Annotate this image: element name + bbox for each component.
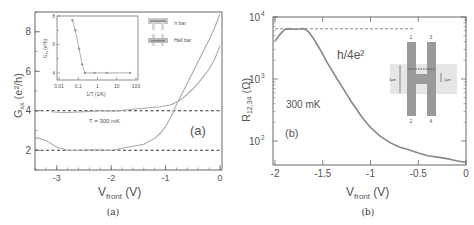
panel-label-a: (a): [190, 123, 206, 138]
terminal-3: 3: [430, 34, 433, 40]
terminal-4: 4: [430, 118, 433, 124]
dim-label-3um: 3μm: [389, 78, 396, 82]
inset-data-point: [105, 72, 107, 74]
x-tick-label-b: 0: [463, 168, 469, 179]
inset-data-point: [74, 29, 76, 31]
x-tick-label-b: -2: [271, 168, 280, 179]
x-tick-label-a: -3: [53, 173, 61, 183]
legend-a: π bar Hall bar: [148, 18, 192, 46]
y-tick-exponent-b: 2: [261, 134, 265, 141]
inset-x-tick-label: 10: [114, 83, 120, 89]
legend-hall-bar-icon: [148, 34, 168, 46]
legend-entry-pi-bar: π bar: [174, 20, 186, 26]
figure: -3-2-102468 T = 300 mK (a) Gxx (e²/h) Vf…: [0, 0, 474, 225]
ylabel-a: Gxx (e²/h): [12, 73, 25, 118]
y-tick-label-b: 10: [249, 12, 261, 23]
y-tick-exponent-b: 3: [261, 72, 265, 79]
inset-x-tick-label: 1: [96, 83, 99, 89]
y-tick-label-a: 8: [25, 26, 31, 37]
inset-data-point: [78, 48, 80, 50]
inset-data-point: [129, 72, 131, 74]
inset-a: 0.010.1110100468 Gxx (e²/h) 1/T (1/K): [43, 14, 140, 97]
x-tick-label-a: 0: [217, 173, 222, 183]
device-arm-left: [407, 42, 416, 116]
inset-xlabel: 1/T (1/K): [86, 91, 106, 97]
inset-x-tick-label: 100: [132, 83, 141, 89]
panel-label-b: (b): [285, 127, 298, 139]
series-line-r1234: [275, 29, 466, 163]
x-tick-label-b: -1: [366, 168, 375, 179]
x-tick-label-a: -1: [162, 173, 170, 183]
inset-y-tick-label: 4: [52, 71, 55, 76]
inset-x-tick-label: 0.1: [75, 83, 82, 89]
inset-data-point: [84, 72, 86, 74]
inset-y-tick-label: 6: [52, 42, 55, 47]
caption-b: (b): [362, 207, 375, 217]
legend-entry-hall-bar: Hall bar: [174, 37, 192, 43]
inset-frame: [57, 16, 138, 80]
panel-a: -3-2-102468 T = 300 mK (a) Gxx (e²/h) Vf…: [12, 12, 223, 217]
ylabel-b: R12,34 (Ω): [240, 78, 253, 122]
inset-data-point: [71, 19, 73, 21]
x-tick-label-b: -0.5: [410, 168, 428, 179]
inset-data-point: [81, 63, 83, 65]
inset-x-tick-label: 0.01: [54, 83, 64, 89]
inset-data-point: [93, 72, 95, 74]
annotation-temperature-a: T = 300 mK: [89, 118, 120, 124]
y-tick-exponent-b: 4: [261, 10, 265, 17]
terminal-2: 2: [410, 118, 413, 124]
caption-a: (a): [107, 207, 119, 217]
xlabel-b: Vfront (V): [346, 185, 389, 201]
panel-b: -2-1.5-1-0.50102103104 h/4e² 300 mK (b) …: [240, 10, 469, 217]
y-tick-label-a: 4: [25, 105, 31, 116]
reference-label-b: h/4e²: [337, 48, 364, 62]
legend-pi-bar-icon: [148, 18, 168, 30]
annotation-temperature-b: 300 mK: [286, 99, 321, 110]
x-tick-label-b: -1.5: [314, 168, 332, 179]
y-tick-label-a: 2: [25, 145, 31, 156]
xlabel-a: Vfront (V): [98, 185, 141, 201]
inset-y-tick-label: 8: [52, 14, 55, 19]
device-arm-right: [427, 42, 436, 116]
terminal-1: 1: [410, 34, 413, 40]
device-bridge: [416, 74, 427, 84]
inset-ylabel: Gxx (e²/h): [43, 38, 49, 58]
device-schematic: 1 3 2 4 3μm 1μm: [389, 34, 457, 124]
y-tick-label-a: 6: [25, 66, 31, 77]
x-tick-label-a: -2: [107, 173, 115, 183]
y-tick-label-b: 10: [249, 136, 261, 147]
dim-label-1um: 1μm: [444, 78, 451, 82]
